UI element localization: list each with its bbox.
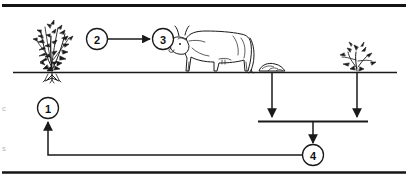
cow-icon [169,26,254,73]
plant-root-tuft-icon [43,73,61,83]
node-2[interactable]: 2 [87,29,108,50]
margin-mark-1: c [2,104,6,113]
line-node-4-to-node-1 [48,122,302,155]
margin-mark-2: s [2,144,6,153]
node-3[interactable]: 3 [153,29,174,50]
node-1-label: 1 [45,103,51,115]
nutrient-cycle-figure: 1 2 3 4 c s [0,0,409,178]
node-2-label: 2 [94,34,100,46]
diagram-canvas: 1 2 3 4 c s [0,0,409,178]
leafy-plant-icon [33,20,73,71]
node-4-label: 4 [310,150,317,162]
node-4[interactable]: 4 [303,145,324,166]
small-shrub-tuft-icon [340,42,376,71]
node-1[interactable]: 1 [38,98,59,119]
node-3-label: 3 [160,34,166,46]
manure-dung-pile-icon [259,63,285,71]
